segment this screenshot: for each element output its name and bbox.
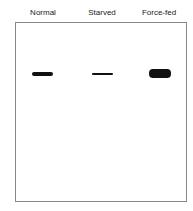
lane-label-starved: Starved — [77, 8, 127, 17]
lane-label-force-fed: Force-fed — [134, 8, 184, 17]
lane-label-normal: Normal — [18, 8, 68, 17]
band-force-fed — [149, 69, 171, 78]
western-blot-membrane — [15, 22, 187, 202]
band-normal — [32, 72, 53, 76]
band-starved — [92, 73, 113, 75]
